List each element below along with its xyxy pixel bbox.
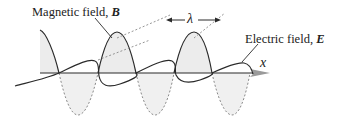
magnetic-field-lower-lobes [59, 73, 250, 115]
magnetic-field-label: Magnetic field, B [32, 6, 120, 19]
electric-field-leader [242, 44, 258, 62]
magnetic-field-leader [95, 18, 112, 38]
electric-field-symbol: E [316, 32, 324, 46]
x-axis-label: x [260, 56, 266, 70]
x-axis-symbol: x [260, 55, 266, 70]
magnetic-field-symbol: B [112, 5, 120, 19]
magnetic-field-text: Magnetic field, [32, 5, 112, 19]
wavelength-label: λ [187, 12, 193, 26]
electric-field-text: Electric field, [245, 32, 316, 46]
electric-field-label: Electric field, E [245, 33, 325, 46]
magnetic-field-upper-lobes [40, 30, 212, 73]
em-wave-diagram: Magnetic field, B λ Electric field, E x [0, 0, 341, 122]
wavelength-symbol: λ [187, 11, 193, 26]
wavelength-arrow [166, 18, 221, 23]
